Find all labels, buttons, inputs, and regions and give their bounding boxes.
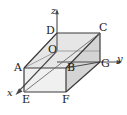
vertex-label-G: G bbox=[101, 58, 110, 69]
vertex-label-E: E bbox=[22, 94, 30, 105]
vertex-label-A: A bbox=[14, 62, 22, 73]
figure-canvas: A B C D E F G O x y z bbox=[0, 0, 127, 115]
axis-label-y: y bbox=[117, 54, 123, 64]
axis-label-x: x bbox=[7, 88, 13, 98]
axis-label-z: z bbox=[51, 6, 56, 16]
face-front bbox=[24, 68, 66, 92]
vertex-label-C: C bbox=[99, 22, 107, 33]
vertex-label-D: D bbox=[46, 25, 55, 36]
vertex-label-O: O bbox=[48, 44, 57, 55]
vertex-label-B: B bbox=[67, 62, 75, 73]
vertex-label-F: F bbox=[62, 94, 70, 105]
